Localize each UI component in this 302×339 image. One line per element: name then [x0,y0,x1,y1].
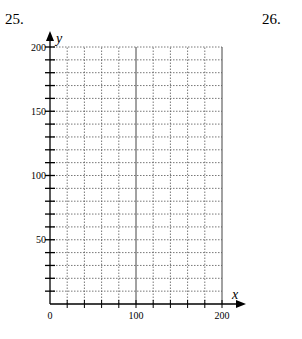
tick-labels: 010020050100150200 [31,42,230,322]
ticks [45,47,222,308]
y-axis-label: y [54,31,63,46]
y-axis-arrow-icon [46,31,54,41]
grid-lines [50,47,222,304]
x-tick-label: 0 [48,310,53,321]
y-tick-label: 100 [31,170,46,181]
x-axis-label: x [231,287,239,302]
y-tick-label: 50 [36,234,46,245]
coordinate-grid: 010020050100150200 y x [0,0,302,339]
x-tick-label: 100 [129,310,144,321]
y-tick-label: 200 [31,42,46,53]
x-tick-label: 200 [215,310,230,321]
y-tick-label: 150 [31,106,46,117]
